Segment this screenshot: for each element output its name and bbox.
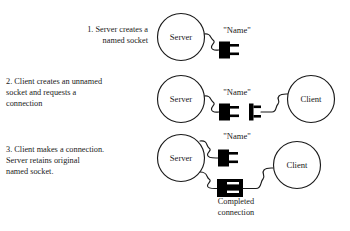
diagram-graphics: Server "Name" Server "Name" <box>0 0 350 231</box>
name-label-3: "Name" <box>223 131 251 141</box>
server-circle-label: Server <box>170 94 193 104</box>
named-socket-icon <box>219 104 239 121</box>
step-1-graphic: Server "Name" <box>158 14 251 61</box>
wavy-cable-icon <box>200 172 217 189</box>
step-3-graphic: Server "Name" Client <box>158 131 321 197</box>
client-circle-label: Client <box>286 160 308 170</box>
named-socket-icon <box>219 42 239 59</box>
named-socket-icon <box>218 150 238 167</box>
name-label-2: "Name" <box>223 87 251 97</box>
wavy-cable-icon <box>261 94 288 112</box>
server-circle-label: Server <box>170 32 193 42</box>
diagram-canvas: 1. Server creates a named socket 2. Clie… <box>0 0 350 231</box>
name-label-1: "Name" <box>223 25 251 35</box>
unnamed-socket-icon <box>249 104 261 121</box>
wavy-cable-icon <box>243 168 273 189</box>
step-2-graphic: Server "Name" Client <box>158 76 335 123</box>
wavy-cable-icon <box>205 34 220 50</box>
client-circle-label: Client <box>300 94 322 104</box>
wavy-cable-icon <box>205 96 220 112</box>
mated-connector-icon <box>217 179 243 197</box>
server-circle-label: Server <box>170 153 193 163</box>
